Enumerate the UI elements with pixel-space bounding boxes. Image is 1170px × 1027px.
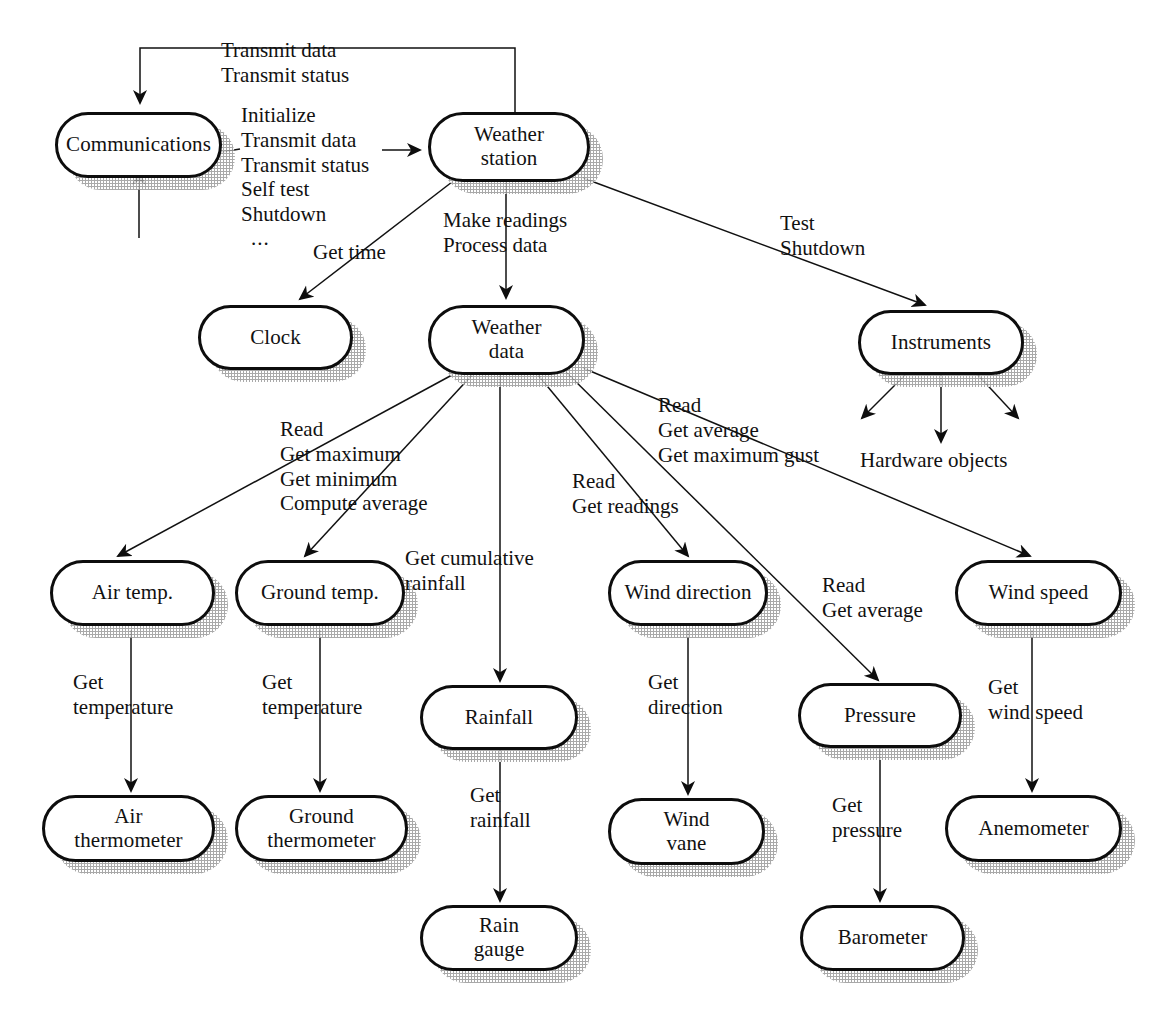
node-ground-temp[interactable]: Ground temp. [235,560,405,626]
node-rain-gauge-label: Rain gauge [464,914,535,961]
node-ground-temp-label: Ground temp. [251,581,389,605]
node-rainfall[interactable]: Rainfall [420,685,578,750]
node-ground-thermometer[interactable]: Ground thermometer [235,795,408,862]
node-wind-speed-label: Wind speed [979,581,1099,605]
node-rain-gauge[interactable]: Rain gauge [420,905,578,971]
node-ground-thermometer-label: Ground thermometer [257,805,385,852]
edge-label-test-shutdown: Test Shutdown [780,211,865,261]
node-pressure[interactable]: Pressure [798,683,962,748]
node-clock[interactable]: Clock [198,305,353,370]
edge-label-get-cumulative-rainfall: Get cumulative rainfall [405,546,534,596]
edge-label-hardware-objects: Hardware objects [860,448,1008,473]
node-air-thermometer-label: Air thermometer [64,805,192,852]
node-wind-direction-label: Wind direction [614,581,761,605]
node-air-temp-label: Air temp. [82,581,183,605]
node-anemometer-label: Anemometer [968,817,1099,841]
diagram-canvas: Communications Weather station Clock Wea… [0,0,1170,1027]
edge-station-to-instruments [583,178,925,305]
edge-label-station-to-communications: Transmit data Transmit status [221,38,349,88]
node-instruments-label: Instruments [881,331,1001,355]
node-wind-speed[interactable]: Wind speed [955,560,1122,626]
node-instruments[interactable]: Instruments [858,310,1024,375]
edge-label-weather-data-to-pressure: Read Get average [822,573,923,623]
node-weather-data[interactable]: Weather data [428,305,585,375]
edge-label-communications-services: Initialize Transmit data Transmit status… [241,103,369,227]
edge-label-get-direction: Get direction [648,670,723,720]
node-barometer[interactable]: Barometer [800,905,965,971]
edge-label-get-wind-speed: Get wind speed [988,675,1083,725]
node-wind-vane[interactable]: Wind vane [608,798,765,865]
edge-label-air-get-temperature: Get temperature [73,670,173,720]
node-wind-direction[interactable]: Wind direction [608,560,768,626]
node-air-thermometer[interactable]: Air thermometer [42,795,215,862]
node-clock-label: Clock [240,326,311,350]
node-weather-station-label: Weather station [464,123,554,170]
edge-label-get-pressure: Get pressure [832,793,902,843]
node-communications[interactable]: Communications [55,112,222,178]
node-weather-station[interactable]: Weather station [428,112,590,182]
edge-label-ground-get-temperature: Get temperature [262,670,362,720]
node-anemometer[interactable]: Anemometer [945,795,1122,862]
node-rainfall-label: Rainfall [455,706,543,730]
node-barometer-label: Barometer [828,926,938,950]
edge-label-communications-ellipsis: ... [251,226,270,251]
edge-label-get-rainfall: Get rainfall [470,783,531,833]
node-pressure-label: Pressure [834,704,926,728]
edge-label-weather-data-to-temp: Read Get maximum Get minimum Compute ave… [280,417,428,516]
node-wind-vane-label: Wind vane [653,808,719,855]
edge-label-get-time: Get time [313,240,386,265]
node-air-temp[interactable]: Air temp. [50,560,215,626]
edge-label-make-readings: Make readings Process data [443,208,567,258]
edge-label-weather-data-to-wind-direction: Read Get readings [572,469,679,519]
edge-label-weather-data-to-wind-speed: Read Get average Get maximum gust [658,393,819,467]
node-weather-data-label: Weather data [461,316,551,363]
node-communications-label: Communications [56,133,221,157]
